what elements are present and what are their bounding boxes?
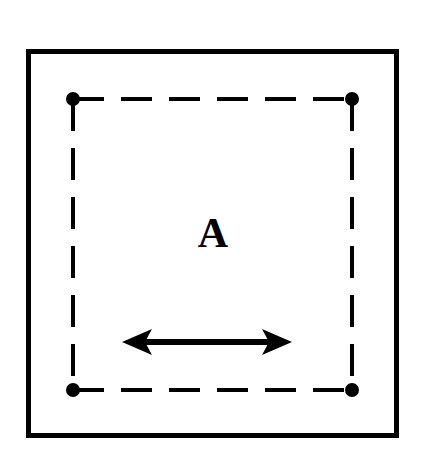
- arrow-shaft: [145, 339, 269, 345]
- corner-dot-bottom-left: [66, 383, 80, 397]
- figure-container: A: [0, 0, 422, 460]
- corner-dot-top-left: [66, 92, 80, 106]
- diagram-canvas: [0, 0, 422, 460]
- corner-dot-bottom-right: [345, 383, 359, 397]
- corner-dot-top-right: [345, 92, 359, 106]
